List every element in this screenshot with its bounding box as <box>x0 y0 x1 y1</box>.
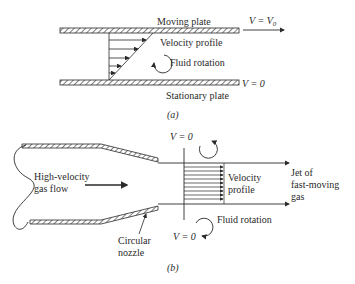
stationary-plate-label: Stationary plate <box>166 90 230 101</box>
pipe-lower-wall <box>30 206 158 224</box>
uniform-velocity-profile <box>184 163 224 204</box>
top-rotation-icon <box>199 141 217 158</box>
figure-a: Moving plate V = V0 Velocity profile Flu… <box>60 15 284 121</box>
figure-b: High-velocity gas flow V = 0 Velocity pr… <box>13 131 339 274</box>
moving-plate <box>60 28 239 33</box>
fluid-rotation-label: Fluid rotation <box>170 57 225 68</box>
stationary-plate <box>60 80 239 85</box>
bottom-rotation-icon <box>196 218 213 236</box>
shear-flow-diagram: Moving plate V = V0 Velocity profile Flu… <box>0 0 355 284</box>
pipe-break <box>13 145 34 229</box>
jet-label-line3: gas <box>291 191 304 202</box>
caption-b: (b) <box>167 262 179 274</box>
linear-velocity-profile <box>109 33 153 80</box>
nozzle-pointer <box>139 214 146 234</box>
jet-label-line2: fast-moving <box>291 179 339 190</box>
bottom-velocity-label: V = 0 <box>173 231 196 242</box>
jet-label-line1: Jet of <box>291 167 314 178</box>
nozzle-label-line1: Circular <box>118 235 151 246</box>
flow-label-line1: High-velocity <box>34 171 90 182</box>
velocity-profile-line2: profile <box>228 184 255 195</box>
nozzle-label-line2: nozzle <box>118 247 145 258</box>
velocity-profile-line1: Velocity <box>228 172 261 183</box>
pipe-upper-wall <box>22 144 158 162</box>
caption-a: (a) <box>167 109 179 121</box>
top-velocity-label: V = 0 <box>170 131 193 142</box>
fluid-rotation-label: Fluid rotation <box>217 214 272 225</box>
velocity-profile-label: Velocity profile <box>160 37 223 48</box>
flow-label-line2: gas flow <box>34 183 69 194</box>
bottom-velocity-label: V = 0 <box>242 78 265 89</box>
top-velocity-label: V = V0 <box>249 15 277 28</box>
moving-plate-label: Moving plate <box>157 16 211 27</box>
